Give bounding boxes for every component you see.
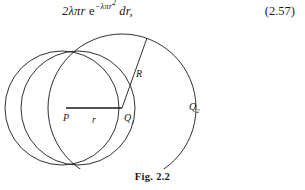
equation-number: (2.57) (265, 4, 295, 19)
label-point-q1-subscript: 1 (131, 118, 134, 125)
label-point-q2-subscript: 2 (196, 107, 200, 114)
equation-row: 2λπr e−λπr2 dr, (2.57) (0, 4, 305, 24)
equation-exponent: −λπr2 (95, 1, 116, 11)
label-radius-big-R: R (135, 68, 142, 79)
label-point-q1: Q1 (124, 112, 134, 125)
circle-big-q1 (48, 34, 196, 169)
label-center-p: P (62, 112, 69, 123)
figure-diagram: P r Q1 R Q2 (0, 24, 305, 169)
equation-exp-power: 2 (112, 0, 116, 7)
label-radius-r: r (92, 114, 96, 125)
label-point-q2: Q2 (189, 101, 200, 114)
figure-page: 2λπr e−λπr2 dr, (2.57) P r Q1 R Q2 Fig. … (0, 0, 305, 190)
figure-caption: Fig. 2.2 (0, 171, 305, 182)
equation-expression: 2λπr e−λπr2 dr, (62, 4, 133, 19)
segment-radius-R (122, 38, 147, 108)
equation-differential: dr, (119, 4, 132, 18)
